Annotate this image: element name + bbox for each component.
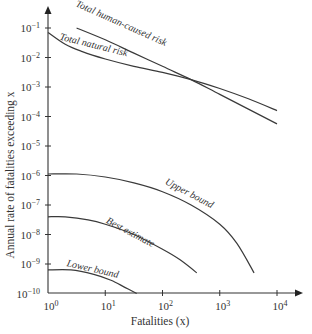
x-tick-label: 100 bbox=[44, 299, 59, 312]
y-tick-label: 10−5 bbox=[20, 139, 40, 152]
curve-upper-bound bbox=[48, 174, 254, 273]
y-tick-label: 10−6 bbox=[20, 169, 40, 182]
x-tick-label: 104 bbox=[273, 299, 288, 312]
y-tick-label: 10−2 bbox=[20, 51, 40, 64]
x-axis-arrow-icon bbox=[295, 290, 303, 297]
log-log-risk-chart: 100101102103104 10−110−210−310−410−510−6… bbox=[0, 0, 312, 334]
label-best-estimate: Best estimate bbox=[105, 215, 157, 250]
y-axis-arrow-icon bbox=[45, 6, 52, 14]
curves bbox=[48, 28, 277, 294]
axes bbox=[45, 6, 304, 297]
x-tick-label: 102 bbox=[158, 299, 173, 312]
label-upper-bound: Upper bound bbox=[164, 176, 217, 211]
y-tick-label: 10−9 bbox=[20, 257, 40, 270]
y-tick-label: 10−7 bbox=[20, 198, 40, 211]
y-tick-label: 10−8 bbox=[20, 228, 40, 241]
y-tick-label: 10−4 bbox=[20, 110, 40, 123]
x-axis-label: Fatalities (x) bbox=[131, 315, 190, 328]
chart-canvas: 100101102103104 10−110−210−310−410−510−6… bbox=[0, 0, 312, 334]
curve-labels: Total human-caused riskTotal natural ris… bbox=[59, 0, 217, 280]
y-tick-label: 10−1 bbox=[20, 21, 40, 34]
x-axis-label-text: Fatalities (x) bbox=[131, 315, 190, 328]
x-tick-label: 103 bbox=[215, 299, 230, 312]
x-tick-label: 101 bbox=[101, 299, 116, 312]
label-lower-bound: Lower bound bbox=[65, 257, 121, 280]
y-ticks: 10−110−210−310−410−510−610−710−810−910−1… bbox=[16, 21, 51, 300]
y-tick-label: 10−10 bbox=[16, 287, 40, 300]
y-tick-label: 10−3 bbox=[20, 80, 40, 93]
y-axis-label: Annual rate of fatalities exceeding x bbox=[4, 91, 17, 258]
